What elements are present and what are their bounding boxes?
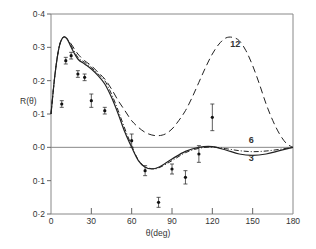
y-axis: 0·40·30·20·10·00·10·2 bbox=[33, 9, 51, 219]
y-tick-label: 0·1 bbox=[33, 109, 46, 119]
point-marker bbox=[83, 76, 86, 79]
chart: 0·40·30·20·10·00·10·2 0306090120150180 1… bbox=[0, 0, 316, 249]
data-point bbox=[183, 171, 187, 184]
x-tick-label: 150 bbox=[246, 216, 260, 226]
point-marker bbox=[184, 176, 187, 179]
x-tick-label: 30 bbox=[87, 216, 97, 226]
data-point bbox=[157, 197, 161, 207]
y-tick-label: 0·0 bbox=[33, 142, 46, 152]
y-axis-title: R(θ) bbox=[20, 96, 37, 106]
x-tick-label: 120 bbox=[205, 216, 219, 226]
curve-label-12: 12 bbox=[230, 39, 240, 49]
x-tick-label: 90 bbox=[167, 216, 177, 226]
chart-canvas: 0·40·30·20·10·00·10·2 0306090120150180 1… bbox=[0, 0, 316, 249]
data-point bbox=[76, 71, 80, 78]
data-point bbox=[64, 57, 68, 64]
point-marker bbox=[90, 99, 93, 102]
x-tick-label: 60 bbox=[127, 216, 137, 226]
x-axis: 0306090120150180 bbox=[49, 208, 301, 226]
data-points bbox=[60, 52, 215, 207]
y-tick-label: 0·1 bbox=[33, 176, 46, 186]
data-point bbox=[83, 74, 87, 81]
point-marker bbox=[197, 152, 200, 155]
curves bbox=[51, 37, 293, 169]
point-marker bbox=[60, 102, 63, 105]
curve-labels: 1263 bbox=[230, 39, 254, 163]
curve-6 bbox=[51, 37, 293, 169]
y-tick-label: 0·2 bbox=[33, 76, 46, 86]
x-tick-label: 0 bbox=[49, 216, 54, 226]
data-point bbox=[69, 52, 73, 59]
curve-label-3: 3 bbox=[249, 153, 254, 163]
curve-12 bbox=[51, 37, 293, 147]
y-tick-label: 0·2 bbox=[33, 209, 46, 219]
point-marker bbox=[157, 201, 160, 204]
y-tick-label: 0·3 bbox=[33, 42, 46, 52]
data-point bbox=[60, 101, 64, 108]
x-axis-title: θ(deg) bbox=[146, 228, 171, 238]
data-point bbox=[103, 107, 107, 114]
data-point bbox=[210, 104, 214, 131]
point-marker bbox=[130, 139, 133, 142]
y-tick-label: 0·4 bbox=[33, 9, 46, 19]
data-point bbox=[89, 94, 93, 107]
curve-label-6: 6 bbox=[249, 135, 254, 145]
point-marker bbox=[103, 109, 106, 112]
point-marker bbox=[144, 169, 147, 172]
point-marker bbox=[70, 54, 73, 57]
point-marker bbox=[211, 116, 214, 119]
point-marker bbox=[76, 72, 79, 75]
plot-frame bbox=[51, 14, 293, 214]
curve-3 bbox=[51, 37, 293, 169]
x-tick-label: 180 bbox=[286, 216, 300, 226]
data-point bbox=[170, 164, 174, 174]
point-marker bbox=[170, 167, 173, 170]
point-marker bbox=[64, 59, 67, 62]
